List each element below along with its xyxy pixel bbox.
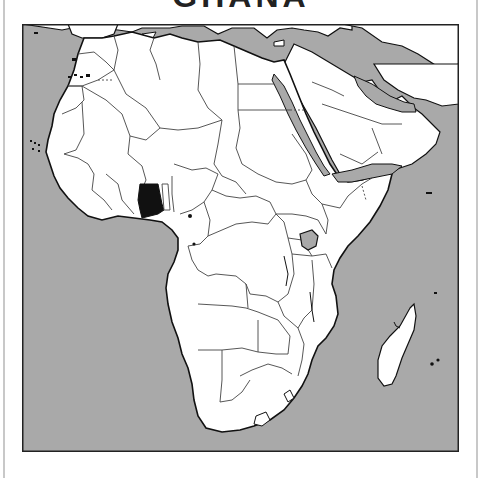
africa-map [22, 24, 459, 452]
map-title: GHANA [0, 0, 482, 15]
map-panel [22, 24, 459, 452]
lake-victoria [300, 230, 318, 250]
